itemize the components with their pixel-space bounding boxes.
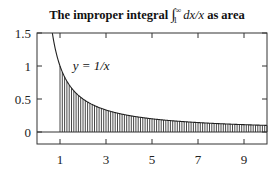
shaded-area — [60, 66, 267, 132]
y-tick-label: 1 — [25, 59, 32, 74]
y-tick-label: 1.5 — [15, 26, 31, 41]
chart: The improper integral ∫∞1dx/x as area 13… — [0, 0, 277, 177]
curve-label: y = 1/x — [71, 58, 110, 73]
chart-title: The improper integral ∫∞1dx/x as area — [49, 6, 245, 25]
x-tick-label: 9 — [241, 152, 248, 167]
curve-1-over-x — [52, 33, 267, 125]
y-tick-label: 0 — [25, 125, 32, 140]
x-tick-label: 5 — [149, 152, 156, 167]
y-tick-label: 0.5 — [15, 92, 31, 107]
x-tick-label: 7 — [195, 152, 202, 167]
x-tick-label: 3 — [103, 152, 110, 167]
x-tick-label: 1 — [57, 152, 64, 167]
annotations: y = 1/x — [71, 58, 110, 73]
